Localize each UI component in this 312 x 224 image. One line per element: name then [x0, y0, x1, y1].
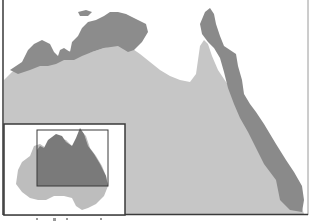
map-canvas — [0, 0, 312, 224]
map-frame — [0, 0, 312, 224]
inset-map — [4, 124, 125, 215]
